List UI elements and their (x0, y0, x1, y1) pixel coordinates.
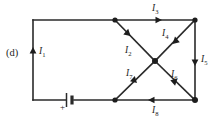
node-top-right (192, 17, 197, 22)
node-bottom-right (192, 97, 198, 103)
arrow-head-I3 (156, 17, 163, 24)
current-label-I5: I5 (201, 55, 207, 66)
arrow-head-I5 (192, 60, 199, 67)
current-label-I7: I7 (126, 69, 132, 80)
current-subscript-I5: 5 (204, 59, 207, 66)
current-subscript-I7: 7 (129, 73, 132, 80)
panel-label: (d) (6, 48, 18, 59)
current-label-I3: I3 (152, 4, 158, 15)
current-subscript-I6: 6 (174, 74, 177, 81)
node-bottom-middle (112, 97, 117, 102)
current-label-I2: I2 (125, 46, 131, 57)
node-top-middle (112, 17, 117, 22)
circuit-schematic (0, 0, 218, 126)
current-label-I1: I1 (39, 47, 45, 58)
current-subscript-I4: 4 (165, 33, 168, 40)
current-label-I8: I8 (152, 106, 158, 117)
current-label-I6: I6 (171, 70, 177, 81)
current-subscript-I3: 3 (155, 8, 158, 15)
battery-polarity-label: + (60, 103, 65, 112)
current-label-I4: I4 (162, 29, 168, 40)
circuit-figure: (d) + I1 I2 I3 I4 I5 I6 I7 I8 (0, 0, 218, 126)
arrow-head-I1 (30, 47, 37, 54)
current-subscript-I1: 1 (42, 51, 45, 58)
current-subscript-I2: 2 (128, 50, 131, 57)
arrow-head-I8 (148, 97, 155, 104)
current-subscript-I8: 8 (155, 110, 158, 117)
wire-diagonal-top-left (115, 20, 155, 61)
node-center (152, 58, 158, 64)
